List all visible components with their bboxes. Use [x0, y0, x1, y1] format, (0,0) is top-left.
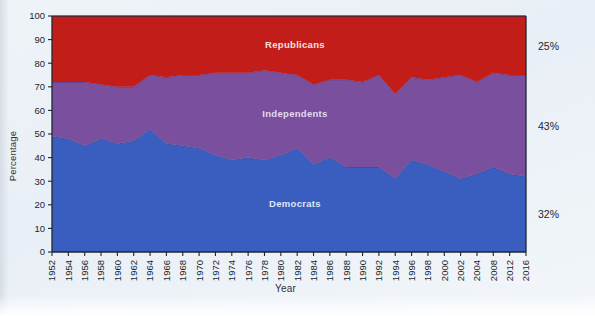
x-tick-label: 2004: [471, 260, 482, 281]
y-tick-label: 10: [34, 223, 45, 234]
x-tick-label: 1962: [128, 260, 139, 281]
x-axis-ticks: 1952195419561958196019621964196619681970…: [46, 252, 531, 281]
x-tick-label: 1996: [406, 260, 417, 281]
x-tick-label: 1952: [46, 260, 57, 281]
x-tick-label: 1956: [79, 260, 90, 281]
series-label-independents: Independents: [262, 108, 327, 119]
x-tick-label: 1966: [161, 260, 172, 281]
x-tick-label: 1992: [373, 260, 384, 281]
y-tick-label: 40: [34, 152, 45, 163]
end-label-democrats: 32%: [538, 208, 559, 220]
y-tick-label: 100: [29, 10, 45, 21]
x-tick-label: 1970: [194, 260, 205, 281]
x-tick-label: 2002: [455, 260, 466, 281]
end-label-independents: 43%: [538, 120, 559, 132]
x-tick-label: 2016: [520, 260, 531, 281]
x-tick-label: 1990: [357, 260, 368, 281]
x-tick-label: 2012: [504, 260, 515, 281]
x-tick-label: 1998: [422, 260, 433, 281]
y-tick-label: 90: [34, 34, 45, 45]
area-series-group: [52, 16, 526, 252]
x-tick-label: 1978: [259, 260, 270, 281]
y-tick-label: 60: [34, 105, 45, 116]
figure-container: Percentage 0102030405060708090100 195219…: [0, 0, 595, 316]
x-tick-label: 1982: [292, 260, 303, 281]
y-tick-label: 50: [34, 128, 45, 139]
x-tick-label: 1960: [112, 260, 123, 281]
y-axis-ticks: 0102030405060708090100: [29, 10, 52, 257]
x-tick-label: 2000: [439, 260, 450, 281]
series-label-republicans: Republicans: [265, 39, 325, 50]
x-axis-title: Year: [275, 283, 296, 294]
x-tick-label: 1994: [390, 260, 401, 281]
x-tick-label: 1976: [243, 260, 254, 281]
y-tick-label: 20: [34, 199, 45, 210]
x-tick-label: 1988: [341, 260, 352, 281]
stacked-area-chart: 0102030405060708090100 19521954195619581…: [0, 0, 595, 316]
x-tick-label: 1972: [210, 260, 221, 281]
x-tick-label: 1954: [63, 260, 74, 281]
x-tick-label: 1980: [275, 260, 286, 281]
x-tick-label: 1986: [324, 260, 335, 281]
x-tick-label: 1974: [226, 260, 237, 281]
end-label-republicans: 25%: [538, 40, 559, 52]
series-end-value-labels: 32%43%25%: [538, 40, 559, 221]
x-tick-label: 1964: [144, 260, 155, 281]
x-tick-label: 1958: [95, 260, 106, 281]
x-tick-label: 1984: [308, 260, 319, 281]
series-label-democrats: Democrats: [269, 198, 321, 209]
y-tick-label: 70: [34, 81, 45, 92]
x-tick-label: 1968: [177, 260, 188, 281]
y-tick-label: 80: [34, 58, 45, 69]
y-tick-label: 0: [40, 246, 45, 257]
y-tick-label: 30: [34, 176, 45, 187]
x-tick-label: 2008: [488, 260, 499, 281]
